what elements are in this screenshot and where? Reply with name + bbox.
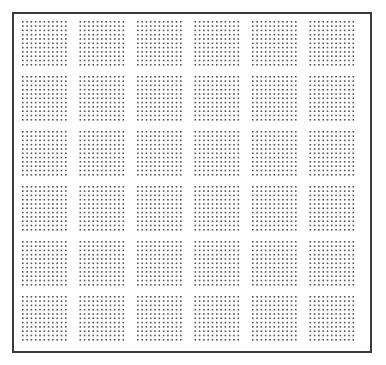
dot xyxy=(56,85,58,87)
dot xyxy=(295,267,297,269)
dot xyxy=(195,102,197,104)
dot xyxy=(35,25,37,27)
dot xyxy=(154,21,156,23)
dot xyxy=(256,51,258,53)
dot xyxy=(233,225,235,227)
dot xyxy=(195,199,197,201)
dot xyxy=(318,131,320,133)
dot xyxy=(22,60,24,62)
dot xyxy=(225,157,227,159)
dot xyxy=(56,258,58,260)
dot xyxy=(84,254,86,256)
dot xyxy=(233,85,235,87)
dot xyxy=(331,271,333,273)
dot xyxy=(322,280,324,282)
dot xyxy=(278,229,280,231)
dot xyxy=(327,330,329,332)
dot xyxy=(154,135,156,137)
dot xyxy=(199,190,201,192)
dot xyxy=(39,153,41,155)
dot xyxy=(278,60,280,62)
dot xyxy=(146,38,148,40)
dot xyxy=(327,161,329,163)
dot xyxy=(101,102,103,104)
dot xyxy=(212,250,214,252)
dot xyxy=(199,89,201,91)
dot xyxy=(265,106,267,108)
dot-block xyxy=(80,241,125,286)
dot xyxy=(220,161,222,163)
dot xyxy=(229,322,231,324)
dot xyxy=(180,330,182,332)
dot xyxy=(344,267,346,269)
dot xyxy=(159,263,161,265)
dot xyxy=(225,190,227,192)
dot xyxy=(265,335,267,337)
dot xyxy=(314,157,316,159)
dot xyxy=(310,225,312,227)
dot xyxy=(61,267,63,269)
dot xyxy=(48,339,50,341)
dot xyxy=(137,43,139,45)
dot xyxy=(97,284,99,286)
dot xyxy=(322,161,324,163)
dot xyxy=(203,43,205,45)
dot xyxy=(199,80,201,82)
dot-block xyxy=(22,76,67,121)
dot xyxy=(229,119,231,121)
dot xyxy=(154,38,156,40)
dot xyxy=(176,110,178,112)
dot xyxy=(61,300,63,302)
dot xyxy=(322,229,324,231)
dot xyxy=(261,43,263,45)
dot xyxy=(101,43,103,45)
dot xyxy=(229,225,231,227)
dot xyxy=(31,102,33,104)
dot xyxy=(282,21,284,23)
dot xyxy=(44,93,46,95)
dot xyxy=(48,38,50,40)
dot xyxy=(229,25,231,27)
dot xyxy=(207,98,209,100)
dot xyxy=(35,85,37,87)
dot xyxy=(154,313,156,315)
dot xyxy=(252,93,254,95)
dot xyxy=(203,148,205,150)
dot xyxy=(310,80,312,82)
dot xyxy=(203,339,205,341)
dot xyxy=(44,174,46,176)
dot xyxy=(154,119,156,121)
dot xyxy=(163,199,165,201)
dot xyxy=(327,225,329,227)
dot xyxy=(238,110,240,112)
dot xyxy=(146,135,148,137)
dot xyxy=(31,335,33,337)
dot xyxy=(310,267,312,269)
dot xyxy=(92,267,94,269)
dot xyxy=(137,326,139,328)
dot xyxy=(199,144,201,146)
dot xyxy=(331,76,333,78)
dot xyxy=(278,47,280,49)
dot xyxy=(353,208,355,210)
dot xyxy=(80,203,82,205)
dot xyxy=(256,335,258,337)
dot xyxy=(199,216,201,218)
dot xyxy=(22,131,24,133)
dot xyxy=(167,190,169,192)
dot xyxy=(150,76,152,78)
dot xyxy=(141,144,143,146)
dot xyxy=(340,140,342,142)
dot xyxy=(180,21,182,23)
dot xyxy=(22,174,24,176)
dot xyxy=(225,153,227,155)
dot xyxy=(141,55,143,57)
dot xyxy=(274,326,276,328)
dot xyxy=(225,43,227,45)
dot xyxy=(327,190,329,192)
dot xyxy=(203,93,205,95)
dot xyxy=(114,220,116,222)
dot xyxy=(159,140,161,142)
dot xyxy=(331,60,333,62)
dot xyxy=(225,208,227,210)
